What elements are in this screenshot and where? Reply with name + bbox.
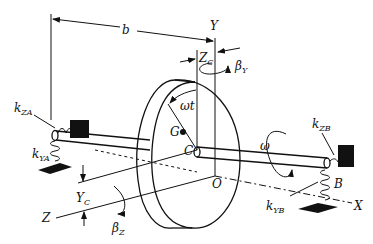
label-k-zb: kZB — [312, 117, 331, 133]
label-beta-z: βZ — [111, 221, 125, 237]
bearing-b-wall-block — [338, 145, 354, 167]
label-b-bearing: B — [333, 177, 343, 191]
label-z-axis: Z — [41, 211, 51, 225]
shaft-right-end — [324, 158, 330, 168]
label-omega-t: ωt — [180, 99, 195, 113]
bearing-a-ground — [38, 163, 72, 174]
label-x-axis: X — [353, 199, 363, 213]
label-beta-y: βY — [234, 59, 248, 75]
beta-z-rotation-arrow — [118, 190, 125, 214]
beta-y-rotation-arrow — [200, 63, 228, 74]
bearing-b-ground — [298, 203, 338, 213]
bearing-b-spring-y — [321, 170, 330, 200]
k-za-leader — [34, 115, 55, 128]
dimension-b-line-right — [137, 31, 213, 41]
shaft-left-end — [52, 131, 58, 141]
dashed-shaft-projection — [95, 150, 197, 172]
beta-z-rotation-arrow-top — [114, 186, 118, 190]
zc-arrow-right — [218, 48, 240, 52]
label-zc: ZC — [198, 51, 213, 67]
label-b: b — [122, 23, 130, 37]
dimension-b-line-left — [53, 19, 120, 27]
label-yc: YC — [76, 191, 90, 207]
disk-front-face — [152, 80, 240, 228]
zc-arrow-left — [180, 59, 195, 62]
bearing-a-spring-y — [51, 141, 60, 161]
label-k-yb: kYB — [266, 199, 285, 215]
label-y-axis: Y — [210, 19, 219, 33]
label-g: G — [170, 125, 180, 139]
label-o-origin: O — [212, 177, 222, 191]
mass-center-g-point — [180, 129, 186, 135]
k-zb-leader — [322, 133, 334, 155]
disk-back-edge — [137, 80, 175, 228]
label-k-za: kZA — [14, 101, 33, 117]
label-k-ya: kYA — [32, 147, 50, 163]
bearing-b-spring-z — [330, 159, 338, 162]
rotor-bearing-diagram: b Y ZC βY ωt G C ω X O Z YC βZ kZA — [0, 0, 373, 244]
label-omega: ω — [260, 139, 270, 153]
bearing-a-wall-block — [70, 120, 89, 138]
